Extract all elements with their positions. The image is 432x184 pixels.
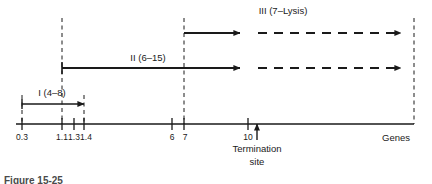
genes-axis bbox=[16, 118, 414, 130]
axis-tick-label-10: 10 bbox=[243, 133, 252, 142]
transcript-II-label: II (6–15) bbox=[130, 53, 165, 63]
transcript-I-label: I (4–8) bbox=[38, 88, 65, 98]
axis-tick-label-1-1: 1.1 bbox=[56, 133, 68, 142]
figure-diagram: I (4–8) II (6–15) III (7–Lysis) 0.3 1.1 … bbox=[0, 0, 432, 184]
figure-caption: Figure 15-25 bbox=[4, 176, 63, 184]
termination-site-label-line2: site bbox=[250, 157, 265, 167]
termination-site-label-line1: Termination bbox=[232, 144, 281, 154]
axis-tick-label-1-3: 1.3 bbox=[68, 133, 80, 142]
axis-tick-label-6: 6 bbox=[170, 133, 175, 142]
transcript-III-label: III (7–Lysis) bbox=[259, 6, 308, 16]
axis-tick-label-7: 7 bbox=[183, 133, 188, 142]
axis-tick-label-0-3: 0.3 bbox=[16, 133, 28, 142]
transcript-I-track bbox=[22, 99, 84, 109]
axis-tick-label-1-4: 1.4 bbox=[80, 133, 92, 142]
genes-axis-label: Genes bbox=[382, 133, 410, 143]
transcript-II-track bbox=[62, 62, 401, 74]
